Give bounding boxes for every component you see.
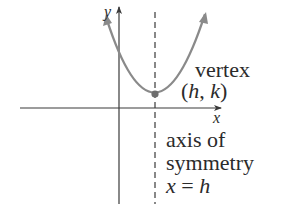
axis-of-symmetry-label-line2: symmetry bbox=[166, 150, 254, 175]
parabola-diagram: y x vertex (h, k) axis of symmetry x = h bbox=[0, 0, 287, 210]
axis-of-symmetry-label-line1: axis of bbox=[166, 127, 226, 152]
axis-of-symmetry-equation: x = h bbox=[165, 173, 210, 198]
x-axis-label: x bbox=[212, 109, 220, 126]
curve-arrow-right-icon bbox=[199, 12, 208, 24]
vertex-coordinates-label: (h, k) bbox=[181, 78, 227, 103]
vertex-point bbox=[151, 90, 158, 97]
y-axis-label: y bbox=[102, 3, 112, 21]
